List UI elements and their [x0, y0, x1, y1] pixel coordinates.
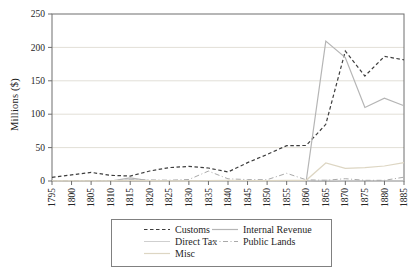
x-tick-label: 1840 — [223, 188, 233, 207]
x-tick-label: 1860 — [301, 188, 311, 207]
x-tick-label: 1875 — [360, 188, 370, 207]
legend-label-misc: Misc — [175, 248, 195, 259]
series-line-3 — [52, 171, 404, 181]
legend-item-customs: Customs — [144, 224, 210, 235]
legend-line-direct-tax-icon — [144, 237, 170, 246]
legend-line-internal-revenue-icon — [212, 225, 238, 234]
x-tick-label: 1795 — [47, 188, 57, 207]
x-tick-label: 1850 — [262, 188, 272, 207]
legend-label-direct-tax: Direct Tax — [175, 236, 217, 247]
x-tick-label: 1855 — [282, 188, 292, 207]
y-tick-label: 150 — [31, 76, 46, 86]
x-tick-label: 1830 — [184, 188, 194, 207]
plot-border — [52, 14, 404, 181]
x-tick-label: 1800 — [67, 188, 77, 207]
series-line-4 — [52, 163, 404, 181]
x-tick-label: 1865 — [321, 188, 331, 207]
series-line-1 — [52, 41, 404, 181]
y-axis-title: Millions ($) — [9, 30, 22, 180]
x-tick-label: 1880 — [380, 188, 390, 207]
x-tick-label: 1820 — [145, 188, 155, 207]
x-tick-label: 1805 — [86, 188, 96, 207]
x-tick-label: 1835 — [204, 188, 214, 207]
legend-line-customs-icon — [144, 225, 170, 234]
legend-label-public-lands: Public Lands — [243, 236, 296, 247]
legend: Customs Internal Revenue Direct Tax Publ… — [111, 219, 332, 267]
x-tick-label: 1810 — [106, 188, 116, 207]
y-tick-label: 50 — [36, 143, 46, 153]
x-tick-label: 1815 — [125, 188, 135, 207]
y-tick-label: 250 — [31, 9, 46, 19]
x-tick-label: 1845 — [243, 188, 253, 207]
x-tick-label: 1885 — [399, 188, 409, 207]
legend-item-public-lands: Public Lands — [212, 236, 296, 247]
x-tick-label: 1825 — [164, 188, 174, 207]
legend-item-internal-revenue: Internal Revenue — [212, 224, 312, 235]
legend-line-misc-icon — [144, 249, 170, 258]
y-tick-label: 0 — [40, 176, 45, 186]
legend-item-direct-tax: Direct Tax — [144, 236, 217, 247]
legend-line-public-lands-icon — [212, 237, 238, 246]
y-tick-label: 100 — [31, 109, 46, 119]
legend-label-internal-revenue: Internal Revenue — [243, 224, 312, 235]
x-tick-label: 1870 — [340, 188, 350, 207]
legend-item-misc: Misc — [144, 248, 195, 259]
chart-container: 0501001502002501795180018051810181518201… — [0, 0, 418, 279]
y-tick-label: 200 — [31, 43, 46, 53]
legend-label-customs: Customs — [175, 224, 210, 235]
